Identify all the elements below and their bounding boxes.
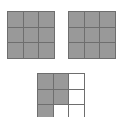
grid-3: [37, 73, 85, 117]
grid-3-cell-r3c3: [69, 105, 84, 117]
grid-2-cell-r1c2: [85, 12, 100, 27]
grid-3-cell-r1c1: [38, 74, 53, 89]
grid-1-cell-r2c3: [39, 28, 54, 43]
grid-1-cell-r3c2: [24, 43, 39, 58]
grid-1-cell-r2c2: [24, 28, 39, 43]
grid-3-cell-r2c3: [69, 90, 84, 105]
grid-2: [68, 11, 116, 59]
grid-1-cell-r3c1: [8, 43, 23, 58]
grid-2-cell-r2c3: [100, 28, 115, 43]
grid-1: [7, 11, 55, 59]
grid-2-cell-r3c3: [100, 43, 115, 58]
grid-1-cell-r2c1: [8, 28, 23, 43]
grid-3-cell-r1c2: [54, 74, 69, 89]
grid-3-cell-r1c3: [69, 74, 84, 89]
grid-3-cell-r2c2: [54, 90, 69, 105]
grid-1-cell-r3c3: [39, 43, 54, 58]
grid-3-cell-r3c2: [54, 105, 69, 117]
grid-2-cell-r3c1: [69, 43, 84, 58]
figure-canvas: [0, 0, 123, 117]
grid-1-cell-r1c3: [39, 12, 54, 27]
grid-2-cell-r2c2: [85, 28, 100, 43]
grid-2-cell-r3c2: [85, 43, 100, 58]
grid-2-cell-r1c1: [69, 12, 84, 27]
grid-3-cell-r2c1: [38, 90, 53, 105]
grid-2-cell-r1c3: [100, 12, 115, 27]
grid-1-cell-r1c1: [8, 12, 23, 27]
grid-2-cell-r2c1: [69, 28, 84, 43]
grid-3-cell-r3c1: [38, 105, 53, 117]
grid-1-cell-r1c2: [24, 12, 39, 27]
